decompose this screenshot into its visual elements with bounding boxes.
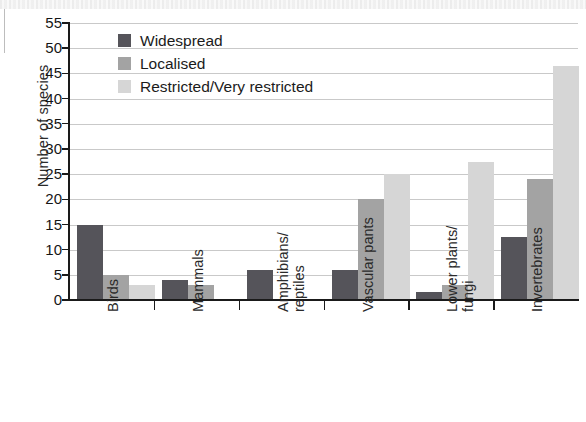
y-axis-tick-label: 45 xyxy=(28,65,62,80)
x-axis-tick xyxy=(239,301,241,310)
bar xyxy=(247,270,273,300)
y-axis-tick xyxy=(62,47,69,49)
y-axis-tick xyxy=(62,299,69,301)
y-axis-tick-label: 35 xyxy=(28,116,62,131)
bar xyxy=(77,225,103,301)
y-axis-tick xyxy=(62,73,69,75)
x-axis-tick xyxy=(493,301,495,310)
x-axis-category-label: Amphibians/ reptiles xyxy=(275,212,307,312)
y-axis-tick-label: 30 xyxy=(28,141,62,156)
bar xyxy=(384,174,410,300)
y-axis-tick-label: 40 xyxy=(28,91,62,106)
gridline xyxy=(69,174,578,175)
gridline xyxy=(69,199,578,200)
legend-label: Widespread xyxy=(140,32,223,50)
x-axis-category-label: Birds xyxy=(105,212,121,312)
gridline xyxy=(69,99,578,100)
legend-swatch-icon xyxy=(118,80,131,93)
bar xyxy=(129,285,155,300)
chart-legend: WidespreadLocalisedRestricted/Very restr… xyxy=(118,29,313,98)
bar xyxy=(332,270,358,300)
y-axis-tick xyxy=(62,274,69,276)
legend-label: Restricted/Very restricted xyxy=(140,78,313,96)
y-axis-tick-label: 50 xyxy=(28,40,62,55)
x-axis-tick xyxy=(154,301,156,310)
y-axis-tick-label: 20 xyxy=(28,191,62,206)
y-axis-tick-label: 10 xyxy=(28,242,62,257)
x-axis-category-label: Lower plants/ fungi xyxy=(444,212,476,312)
y-axis-tick xyxy=(62,22,69,24)
gridline xyxy=(69,23,578,24)
x-axis-category-label: Invertebrates xyxy=(529,212,545,312)
y-axis-tick-label: 5 xyxy=(28,267,62,282)
legend-label: Localised xyxy=(140,55,206,73)
x-axis-category-label: Vascular pants xyxy=(360,212,376,312)
y-axis-tick xyxy=(62,123,69,125)
y-axis-tick-label: 0 xyxy=(28,292,62,307)
y-axis-tick-label: 15 xyxy=(28,217,62,232)
y-axis-tick xyxy=(62,224,69,226)
legend-item: Widespread xyxy=(118,29,313,52)
x-axis-tick xyxy=(408,301,410,310)
y-axis-tick-labels: 0510152025303540455055 xyxy=(22,0,62,422)
x-axis-tick xyxy=(324,301,326,310)
legend-item: Restricted/Very restricted xyxy=(118,75,313,98)
bar xyxy=(162,280,188,300)
y-axis-line xyxy=(68,22,70,301)
bar xyxy=(553,66,579,300)
bar-chart-figure: Number of species 0510152025303540455055… xyxy=(0,0,586,422)
legend-swatch-icon xyxy=(118,57,131,70)
y-axis-tick xyxy=(62,148,69,150)
y-axis-tick xyxy=(62,199,69,201)
x-axis-category-label: Mammals xyxy=(190,212,206,312)
legend-swatch-icon xyxy=(118,34,131,47)
y-axis-tick-label: 25 xyxy=(28,166,62,181)
bar xyxy=(501,237,527,300)
y-axis-tick xyxy=(62,173,69,175)
legend-item: Localised xyxy=(118,52,313,75)
y-axis-tick-label: 55 xyxy=(28,15,62,30)
gridline xyxy=(69,149,578,150)
y-axis-tick xyxy=(62,98,69,100)
y-axis-tick xyxy=(62,249,69,251)
gridline xyxy=(69,124,578,125)
gridline xyxy=(69,225,578,226)
